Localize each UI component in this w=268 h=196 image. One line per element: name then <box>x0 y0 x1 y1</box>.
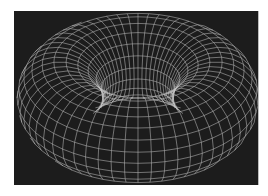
wireframe-torus <box>14 11 258 185</box>
render-panel <box>14 11 259 185</box>
torus-mesh-lines <box>17 13 258 182</box>
